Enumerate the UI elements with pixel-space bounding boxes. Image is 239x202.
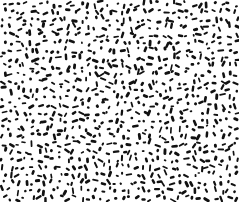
- speckle-mark: [151, 121, 155, 123]
- speckle-mark: [82, 20, 84, 24]
- speckle-mark: [215, 93, 218, 100]
- speckle-mark: [28, 40, 31, 46]
- speckle-mark: [108, 159, 110, 163]
- speckle-mark: [190, 136, 196, 139]
- speckle-mark: [227, 43, 232, 45]
- speckle-mark: [198, 172, 201, 174]
- speckle-mark: [124, 101, 127, 104]
- speckle-mark: [106, 4, 108, 7]
- speckle-mark: [22, 102, 27, 104]
- speckle-mark: [108, 120, 113, 123]
- speckle-mark: [200, 74, 204, 77]
- speckle-mark: [156, 21, 161, 24]
- speckle-mark: [106, 111, 108, 114]
- speckle-mark: [218, 148, 225, 150]
- speckle-mark: [112, 183, 115, 185]
- speckle-mark: [165, 89, 167, 92]
- speckle-mark: [85, 77, 87, 81]
- speckle-mark: [32, 5, 36, 7]
- speckle-mark: [80, 186, 82, 191]
- speckle-mark: [194, 187, 197, 194]
- speckle-mark: [171, 145, 178, 148]
- speckle-mark: [8, 17, 11, 19]
- speckle-mark: [46, 0, 48, 3]
- speckle-mark: [58, 5, 62, 8]
- speckle-mark: [59, 83, 63, 85]
- speckle-mark: [146, 63, 153, 66]
- speckle-mark: [212, 24, 215, 26]
- speckle-mark: [95, 93, 99, 96]
- speckle-mark: [220, 129, 223, 132]
- speckle-mark: [14, 106, 17, 108]
- speckle-mark: [142, 165, 144, 170]
- speckle-mark: [81, 101, 84, 105]
- speckle-mark: [134, 89, 139, 91]
- speckle-mark: [68, 159, 70, 164]
- speckle-mark: [81, 1, 84, 5]
- speckle-mark: [143, 42, 146, 44]
- speckle-mark: [154, 188, 160, 191]
- speckle-mark: [128, 189, 130, 194]
- speckle-mark: [186, 163, 191, 165]
- speckle-mark: [66, 70, 70, 73]
- speckle-mark: [149, 35, 153, 37]
- speckle-mark: [86, 143, 91, 145]
- speckle-mark: [49, 157, 54, 160]
- speckle-mark: [39, 148, 42, 154]
- speckle-mark: [65, 53, 68, 60]
- speckle-mark: [137, 21, 140, 24]
- speckle-mark: [229, 173, 231, 177]
- speckle-mark: [57, 11, 60, 15]
- speckle-texture: [0, 0, 239, 202]
- speckle-mark: [163, 148, 166, 155]
- speckle-mark: [64, 173, 69, 176]
- speckle-mark: [120, 144, 123, 148]
- speckle-mark: [229, 70, 232, 75]
- speckle-mark: [205, 1, 208, 8]
- speckle-mark: [60, 118, 62, 122]
- speckle-mark: [149, 106, 155, 108]
- speckle-mark: [78, 53, 81, 59]
- speckle-mark: [87, 25, 89, 30]
- speckle-mark: [148, 40, 151, 47]
- speckle-mark: [31, 48, 34, 53]
- speckle-mark: [235, 59, 239, 61]
- speckle-mark: [138, 120, 141, 122]
- speckle-mark: [112, 49, 115, 55]
- speckle-mark: [9, 109, 12, 113]
- speckle-mark: [195, 174, 197, 177]
- speckle-mark: [113, 142, 117, 144]
- speckle-mark: [198, 126, 205, 128]
- speckle-mark: [143, 141, 147, 143]
- speckle-mark: [121, 155, 123, 161]
- speckle-mark: [7, 128, 10, 131]
- speckle-mark: [65, 95, 69, 97]
- speckle-mark: [224, 56, 228, 58]
- speckle-mark: [173, 52, 176, 59]
- speckle-mark: [86, 157, 89, 163]
- speckle-mark: [222, 190, 224, 195]
- speckle-mark: [205, 159, 210, 162]
- speckle-mark: [121, 172, 123, 175]
- speckle-mark: [23, 74, 26, 76]
- speckle-mark: [57, 129, 63, 132]
- speckle-mark: [30, 140, 32, 147]
- speckle-mark: [164, 64, 167, 67]
- speckle-mark: [121, 11, 123, 16]
- speckle-mark: [170, 105, 174, 107]
- speckle-mark: [163, 12, 170, 14]
- speckle-mark: [63, 16, 65, 21]
- speckle-mark: [229, 62, 231, 66]
- speckle-mark: [29, 166, 33, 168]
- speckle-mark: [173, 0, 175, 4]
- speckle-mark: [82, 197, 84, 202]
- speckle-mark: [178, 180, 181, 185]
- speckle-mark: [128, 69, 130, 73]
- speckle-mark: [63, 121, 67, 124]
- speckle-mark: [202, 25, 209, 27]
- speckle-mark: [191, 63, 195, 66]
- speckle-mark: [44, 197, 46, 202]
- speckle-mark: [156, 155, 159, 160]
- speckle-mark: [25, 180, 28, 186]
- speckle-mark: [207, 103, 212, 106]
